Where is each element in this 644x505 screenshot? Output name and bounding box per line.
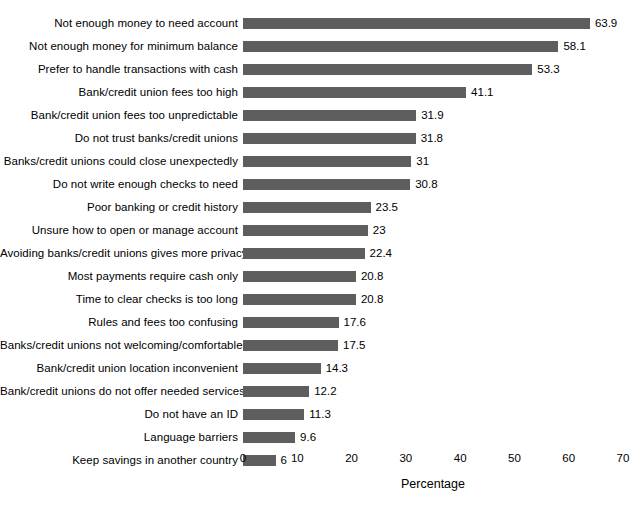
bar-value-label: 17.6: [344, 311, 366, 334]
bar-row: Do not have an ID11.3: [0, 403, 644, 426]
category-label: Banks/credit unions not welcoming/comfor…: [0, 334, 238, 357]
category-label: Bank/credit union location inconvenient: [0, 357, 238, 380]
category-label: Bank/credit union fees too high: [0, 81, 238, 104]
bar-row: Banks/credit unions could close unexpect…: [0, 150, 644, 173]
category-label: Not enough money to need account: [0, 12, 238, 35]
bar-row: Prefer to handle transactions with cash5…: [0, 58, 644, 81]
bar: [243, 386, 309, 397]
bar-value-label: 9.6: [300, 426, 316, 449]
x-tick-label: 40: [440, 452, 480, 464]
x-tick-label: 10: [277, 452, 317, 464]
bar-row: Poor banking or credit history23.5: [0, 196, 644, 219]
bar: [243, 317, 339, 328]
category-label: Unsure how to open or manage account: [0, 219, 238, 242]
bar-value-label: 14.3: [326, 357, 348, 380]
x-tick-label: 50: [494, 452, 534, 464]
bar: [243, 271, 356, 282]
bar-value-label: 30.8: [415, 173, 437, 196]
x-tick-label: 30: [386, 452, 426, 464]
bar: [243, 202, 371, 213]
bar-row: Language barriers9.6: [0, 426, 644, 449]
category-label: Rules and fees too confusing: [0, 311, 238, 334]
bar-row: Rules and fees too confusing17.6: [0, 311, 644, 334]
bar-row: Bank/credit unions do not offer needed s…: [0, 380, 644, 403]
bar: [243, 87, 466, 98]
bar-row: Most payments require cash only20.8: [0, 265, 644, 288]
bar-value-label: 41.1: [471, 81, 493, 104]
category-label: Most payments require cash only: [0, 265, 238, 288]
bar-row: Do not trust banks/credit unions31.8: [0, 127, 644, 150]
bar: [243, 294, 356, 305]
bar: [243, 179, 410, 190]
category-label: Time to clear checks is too long: [0, 288, 238, 311]
bar-row: Unsure how to open or manage account23: [0, 219, 644, 242]
bar: [243, 18, 590, 29]
bar: [243, 64, 532, 75]
bar-chart: Not enough money to need account63.9Not …: [0, 0, 644, 505]
bar-row: Not enough money for minimum balance58.1: [0, 35, 644, 58]
bar-value-label: 20.8: [361, 288, 383, 311]
bar-row: Do not write enough checks to need30.8: [0, 173, 644, 196]
category-label: Avoiding banks/credit unions gives more …: [0, 242, 238, 265]
bar-value-label: 31: [416, 150, 429, 173]
bar-row: Not enough money to need account63.9: [0, 12, 644, 35]
bar-value-label: 23: [373, 219, 386, 242]
bar: [243, 110, 416, 121]
bar-row: Bank/credit union fees too unpredictable…: [0, 104, 644, 127]
category-label: Prefer to handle transactions with cash: [0, 58, 238, 81]
x-axis: 010203040506070: [0, 452, 644, 472]
bar: [243, 41, 558, 52]
x-tick-label: 0: [223, 452, 263, 464]
category-label: Do not trust banks/credit unions: [0, 127, 238, 150]
plot-area: Not enough money to need account63.9Not …: [0, 0, 644, 505]
category-label: Bank/credit union fees too unpredictable: [0, 104, 238, 127]
bar-row: Avoiding banks/credit unions gives more …: [0, 242, 644, 265]
category-label: Language barriers: [0, 426, 238, 449]
bar: [243, 340, 338, 351]
category-label: Do not have an ID: [0, 403, 238, 426]
bar-value-label: 23.5: [376, 196, 398, 219]
category-label: Not enough money for minimum balance: [0, 35, 238, 58]
bar-value-label: 17.5: [343, 334, 365, 357]
bar-value-label: 22.4: [370, 242, 392, 265]
category-label: Poor banking or credit history: [0, 196, 238, 219]
bar: [243, 363, 321, 374]
bar: [243, 133, 416, 144]
bar-row: Time to clear checks is too long20.8: [0, 288, 644, 311]
bar: [243, 156, 411, 167]
x-axis-title: Percentage: [243, 477, 623, 491]
bar-value-label: 11.3: [309, 403, 331, 426]
bar-row: Bank/credit union fees too high41.1: [0, 81, 644, 104]
x-tick-label: 60: [549, 452, 589, 464]
bar-row: Bank/credit union location inconvenient1…: [0, 357, 644, 380]
bar-value-label: 53.3: [537, 58, 559, 81]
category-label: Banks/credit unions could close unexpect…: [0, 150, 238, 173]
x-tick-label: 20: [332, 452, 372, 464]
bar-value-label: 20.8: [361, 265, 383, 288]
bar: [243, 248, 365, 259]
bar: [243, 225, 368, 236]
bar-row: Banks/credit unions not welcoming/comfor…: [0, 334, 644, 357]
bar: [243, 432, 295, 443]
category-label: Do not write enough checks to need: [0, 173, 238, 196]
bar-value-label: 58.1: [563, 35, 585, 58]
bar-value-label: 31.9: [421, 104, 443, 127]
x-tick-label: 70: [603, 452, 643, 464]
bar: [243, 409, 304, 420]
bar-value-label: 31.8: [421, 127, 443, 150]
bar-value-label: 63.9: [595, 12, 617, 35]
bar-value-label: 12.2: [314, 380, 336, 403]
category-label: Bank/credit unions do not offer needed s…: [0, 380, 238, 403]
